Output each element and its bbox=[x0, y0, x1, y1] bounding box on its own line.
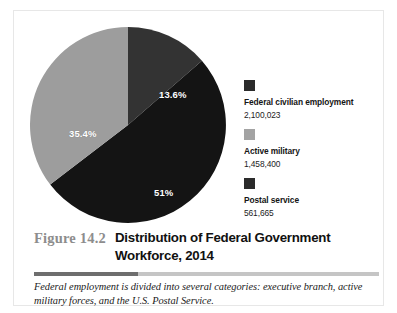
chart-area: 13.6% 35.4% 51% Federal civilian employm… bbox=[0, 0, 397, 228]
legend-item-federal-civilian-employment[interactable]: Federal civilian employment 2,100,023 bbox=[244, 79, 384, 121]
legend-label-active-military: Active military bbox=[244, 146, 384, 157]
legend-value-federal-civilian-employment: 2,100,023 bbox=[244, 109, 384, 121]
pie-chart-svg bbox=[30, 27, 226, 223]
figure-page: 13.6% 35.4% 51% Federal civilian employm… bbox=[0, 0, 397, 313]
legend-value-active-military: 1,458,400 bbox=[244, 158, 384, 170]
legend-swatch-icon-active-military bbox=[244, 129, 255, 140]
figure-description-text: Federal employment is divided into sever… bbox=[34, 280, 378, 308]
legend-item-postal-service[interactable]: Postal service 561,665 bbox=[244, 177, 384, 219]
pie-chart: 13.6% 35.4% 51% bbox=[30, 27, 226, 223]
chart-legend: Federal civilian employment 2,100,023 Ac… bbox=[244, 79, 384, 226]
legend-value-postal-service: 561,665 bbox=[244, 207, 384, 219]
legend-label-postal-service: Postal service bbox=[244, 195, 384, 206]
figure-number: Figure 14.2 bbox=[34, 229, 115, 248]
figure-heading: Figure 14.2 Distribution of Federal Gove… bbox=[34, 229, 379, 265]
figure-title: Distribution of Federal Government Workf… bbox=[115, 229, 358, 265]
legend-text-postal-service: Postal service 561,665 bbox=[244, 195, 384, 219]
legend-label-federal-civilian-employment: Federal civilian employment bbox=[244, 97, 384, 108]
pie-slice-label-federal-civilian-employment: 13.6% bbox=[159, 89, 186, 100]
legend-swatch-icon-federal-civilian-employment bbox=[244, 80, 255, 91]
pie-slice-label-active-military: 35.4% bbox=[69, 128, 96, 139]
pie-slice-label-postal-service: 51% bbox=[154, 187, 173, 198]
divider-segment-dark bbox=[34, 272, 138, 276]
legend-text-active-military: Active military 1,458,400 bbox=[244, 146, 384, 170]
legend-swatch-icon-postal-service bbox=[244, 178, 255, 189]
figure-caption-block: Figure 14.2 Distribution of Federal Gove… bbox=[34, 229, 379, 265]
divider-segment-light bbox=[138, 272, 380, 276]
legend-text-federal-civilian-employment: Federal civilian employment 2,100,023 bbox=[244, 97, 384, 121]
legend-item-active-military[interactable]: Active military 1,458,400 bbox=[244, 128, 384, 170]
caption-divider-bar bbox=[34, 272, 379, 276]
